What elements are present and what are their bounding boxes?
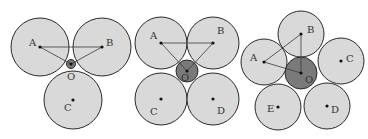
label-a: A: [249, 52, 258, 63]
center-point-c: [159, 97, 162, 100]
center-point-e: [276, 105, 279, 108]
label-b: B: [307, 24, 314, 35]
center-point-a: [159, 41, 162, 44]
center-point-o: [299, 71, 302, 74]
label-c: C: [64, 102, 72, 113]
label-c: C: [346, 53, 354, 64]
circle-packing-diagrams: ABCOABCDOBACEDO: [0, 0, 368, 139]
center-point-a: [38, 45, 41, 48]
label-a: A: [28, 37, 37, 48]
center-point-b: [299, 32, 302, 35]
center-point-d: [211, 97, 214, 100]
label-b: B: [217, 25, 224, 36]
diagram-five-circles: BACEDO: [241, 11, 364, 130]
label-o: O: [305, 74, 313, 85]
diagram-four-circles: ABCDO: [135, 17, 239, 125]
label-o: O: [67, 71, 75, 82]
label-c: C: [150, 106, 158, 117]
label-d: D: [331, 104, 339, 115]
center-point-b: [211, 41, 214, 44]
center-point-o: [69, 62, 72, 65]
label-d: D: [217, 105, 225, 116]
center-point-a: [262, 60, 265, 63]
label-e: E: [267, 103, 274, 114]
label-o: O: [181, 72, 189, 83]
diagram-three-circles: ABCO: [11, 18, 131, 129]
center-point-c: [71, 98, 74, 101]
center-point-c: [339, 59, 342, 62]
label-a: A: [149, 30, 158, 41]
center-point-b: [100, 45, 103, 48]
label-b: B: [106, 37, 113, 48]
center-point-d: [325, 104, 328, 107]
